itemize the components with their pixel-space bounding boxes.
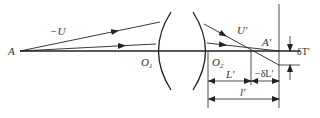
label-transverse-aberration: δT′ bbox=[297, 46, 310, 57]
optics-diagram: A −U O1 O2 U′ A′ δT′ L′ −δL′ l′ bbox=[0, 0, 320, 118]
label-vertex1: O1 bbox=[141, 56, 152, 70]
label-image-point: A′ bbox=[261, 36, 272, 48]
label-object-angle: −U bbox=[50, 25, 66, 37]
diagram-canvas: A −U O1 O2 U′ A′ δT′ L′ −δL′ l′ bbox=[0, 0, 320, 118]
label-paraxial-image-distance: l′ bbox=[240, 86, 246, 98]
label-longitudinal-aberration: −δL′ bbox=[255, 68, 274, 79]
label-image-angle: U′ bbox=[237, 24, 248, 36]
paraxial-ray-in bbox=[20, 44, 156, 51]
label-object-point: A bbox=[7, 45, 15, 57]
label-vertex2: O2 bbox=[212, 56, 224, 70]
label-marginal-image-distance: L′ bbox=[225, 68, 235, 80]
